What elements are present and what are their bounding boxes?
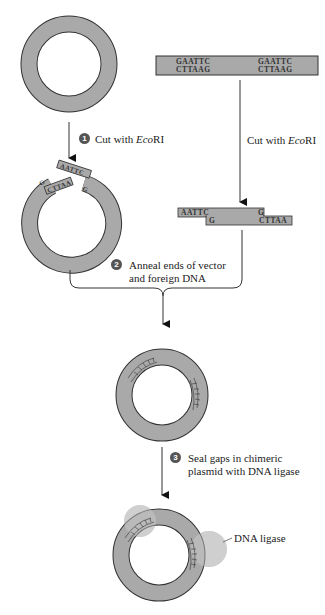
svg-text:CTTAA: CTTAA [259, 216, 287, 225]
plasmid-vector-cut: AATTC G CTTAA G [30, 160, 114, 265]
diagram-canvas: GAATTC CTTAAG GAATTC CTTAAG AATTC G CTTA… [0, 0, 325, 615]
step-2-badge: 2 [111, 259, 122, 270]
step-3-badge: 3 [170, 452, 181, 463]
step-1-badge: 1 [79, 133, 90, 144]
seq-bottom-left: CTTAAG [176, 65, 211, 74]
step-3-label-line2: plasmid with DNA ligase [188, 465, 300, 477]
chimeric-plasmid-sealed [121, 505, 227, 593]
svg-text:CTTAA: CTTAA [46, 179, 72, 194]
svg-text:G: G [209, 216, 215, 225]
chimeric-plasmid-annealed [124, 357, 200, 433]
dna-ligase-label: DNA ligase [234, 532, 286, 544]
step-2-label-line1: Anneal ends of vector [129, 259, 226, 271]
foreign-dna-bar: GAATTC CTTAAG GAATTC CTTAAG [156, 56, 318, 75]
foreign-cut-label: Cut with EcoRI [247, 134, 316, 146]
foreign-dna-fragment: AATTC G G CTTAA [178, 208, 292, 225]
step-2-label-line2: and foreign DNA [129, 272, 206, 284]
seq-bottom-right: CTTAAG [258, 65, 293, 74]
plasmid-vector-intact [29, 24, 109, 104]
svg-text:AATTC: AATTC [181, 208, 209, 217]
step-1-label: Cut with EcoRI [95, 133, 164, 145]
step-3-label-line1: Seal gaps in chimeric [188, 452, 282, 464]
